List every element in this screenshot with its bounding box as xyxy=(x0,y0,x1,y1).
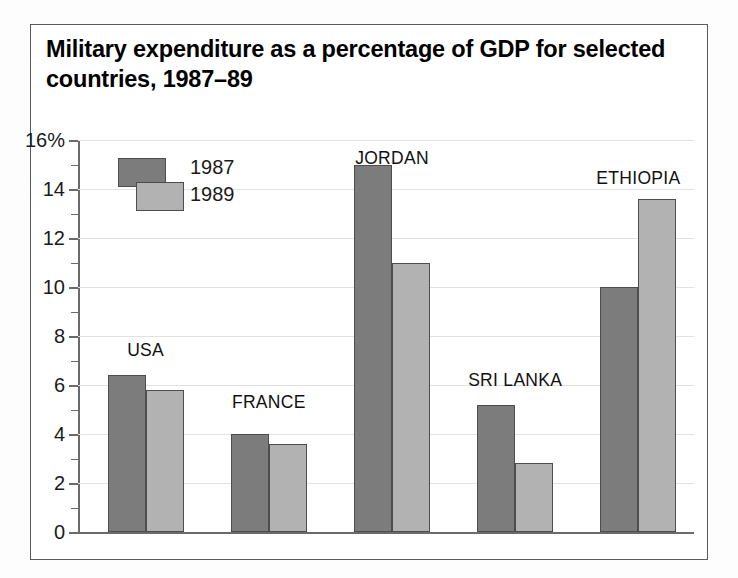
y-tick-label: 12 xyxy=(43,227,65,250)
y-tick-major xyxy=(69,287,78,289)
y-tick-label: 10 xyxy=(43,276,65,299)
bar-ethiopia-1989 xyxy=(638,199,676,532)
y-tick-major xyxy=(69,238,78,240)
y-tick-major xyxy=(69,140,78,142)
bar-sri-lanka-1987 xyxy=(477,405,515,532)
bar-france-1987 xyxy=(231,434,269,532)
y-tick-minor xyxy=(71,214,78,216)
y-tick-minor xyxy=(71,165,78,167)
bar-ethiopia-1987 xyxy=(600,287,638,532)
gridline xyxy=(78,140,694,141)
y-tick-label: 6 xyxy=(54,374,65,397)
y-tick-minor xyxy=(71,459,78,461)
category-label-france: FRANCE xyxy=(232,392,306,413)
y-tick-minor xyxy=(71,361,78,363)
y-tick-minor xyxy=(71,263,78,265)
y-tick-minor xyxy=(71,410,78,412)
y-tick-label: 16% xyxy=(25,129,65,152)
y-tick-major xyxy=(69,434,78,436)
category-label-ethiopia: ETHIOPIA xyxy=(596,168,680,189)
bar-usa-1987 xyxy=(108,375,146,532)
bar-sri-lanka-1989 xyxy=(515,463,553,532)
legend-swatch-1989 xyxy=(136,182,184,211)
y-tick-minor xyxy=(71,312,78,314)
y-tick-label: 14 xyxy=(43,178,65,201)
bar-usa-1989 xyxy=(146,390,184,532)
y-tick-major xyxy=(69,385,78,387)
category-label-sri-lanka: SRI LANKA xyxy=(468,370,562,391)
y-tick-label: 0 xyxy=(54,521,65,544)
y-tick-minor xyxy=(71,508,78,510)
bar-france-1989 xyxy=(269,444,307,532)
y-tick-label: 4 xyxy=(54,423,65,446)
y-tick-major xyxy=(69,336,78,338)
y-tick-major xyxy=(69,483,78,485)
bar-jordan-1987 xyxy=(354,165,392,533)
chart-title: Military expenditure as a percentage of … xyxy=(46,34,686,94)
y-tick-label: 8 xyxy=(54,325,65,348)
category-label-jordan: JORDAN xyxy=(355,148,429,169)
legend-label-1989: 1989 xyxy=(190,183,235,206)
legend-label-1987: 1987 xyxy=(190,156,235,179)
bar-jordan-1989 xyxy=(392,263,430,533)
x-axis-line xyxy=(78,532,694,534)
y-tick-major xyxy=(69,189,78,191)
y-tick-label: 2 xyxy=(54,472,65,495)
chart-figure: Military expenditure as a percentage of … xyxy=(0,0,738,578)
category-label-usa: USA xyxy=(127,340,164,361)
y-tick-major xyxy=(69,532,78,534)
